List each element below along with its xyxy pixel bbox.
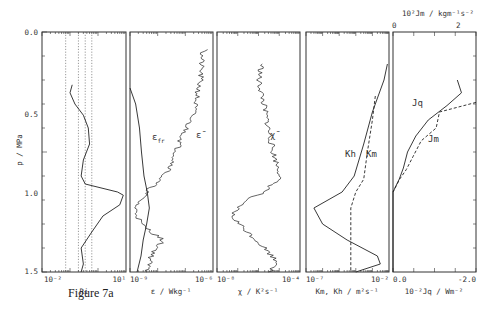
- label-kh: Kh: [345, 149, 356, 159]
- p4-tick-left: 10⁻⁷: [306, 275, 324, 284]
- p1-tick-left: 10⁻²: [44, 275, 62, 284]
- label-km: Km: [366, 149, 377, 159]
- p2-xlabel: ε / Wkg⁻¹: [151, 287, 192, 296]
- label-eps-fr: εfr: [152, 132, 165, 144]
- y-tick-2: 1.0: [24, 189, 38, 198]
- p4-xlabel: Km, Kh / m²s⁻¹: [315, 287, 378, 296]
- p3-tick-right: 10⁻⁴: [282, 275, 300, 284]
- curve--fr: [130, 88, 149, 272]
- curve--: [135, 50, 208, 272]
- panel-frame-2: [130, 32, 213, 272]
- label-chi-bar: χ̄: [270, 130, 280, 140]
- panel-frame-1: [42, 32, 126, 272]
- y-tick-1: 0.5: [24, 110, 38, 119]
- curve-ri: [70, 85, 123, 272]
- p5-tick-right: -2.0: [458, 275, 477, 284]
- figure-7a: 0.0 0.5 1.0 1.5 p / MPa 10⁻² 10¹ Ri 10⁻⁹…: [0, 0, 490, 316]
- p5-top-label: 10²Jm / kgm⁻¹s⁻²: [402, 9, 474, 18]
- panel-frame-3: [217, 32, 300, 272]
- y-tick-3: 1.5: [24, 267, 38, 276]
- curve-j-m: [393, 102, 476, 192]
- p5-xlabel: 10⁻²Jq / Wm⁻²: [405, 287, 464, 296]
- figure-caption: Figure 7a: [68, 286, 114, 301]
- p2-tick-right: 10⁻⁶: [195, 275, 213, 284]
- label-jq: Jq: [412, 98, 423, 108]
- p4-tick-right: 10⁻²: [371, 275, 389, 284]
- p5-top-tick-right: 2: [456, 21, 461, 30]
- p5-top-tick-left: 0: [392, 21, 397, 30]
- label-jm: Jm: [428, 134, 439, 144]
- curve-k-h: [314, 64, 387, 272]
- p2-tick-left: 10⁻⁹: [130, 275, 148, 284]
- curve-k-m: [351, 96, 376, 272]
- curve--: [232, 64, 281, 272]
- label-eps-bar: ε̄: [196, 130, 206, 140]
- y-tick-0: 0.0: [24, 28, 38, 37]
- p1-tick-right: 10¹: [112, 275, 126, 284]
- p3-xlabel: χ / K²s⁻¹: [238, 287, 279, 296]
- p3-tick-left: 10⁻⁸: [217, 275, 235, 284]
- p5-tick-left: 0.0: [393, 275, 407, 284]
- panel-frame-5: [393, 32, 476, 272]
- y-axis-label: p / MPa: [15, 134, 24, 166]
